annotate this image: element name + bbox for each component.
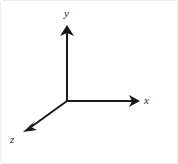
coordinate-axes-figure: y x z [0,0,178,164]
axis-z-line [31,101,67,127]
axis-label-y: y [64,8,69,19]
axis-x [67,95,140,107]
axis-z [23,101,67,132]
axis-label-z: z [10,134,14,145]
axis-y [60,25,74,101]
axis-label-x: x [144,95,149,106]
axes-drawing [0,0,178,164]
axis-z-arrowhead-icon [23,121,37,132]
